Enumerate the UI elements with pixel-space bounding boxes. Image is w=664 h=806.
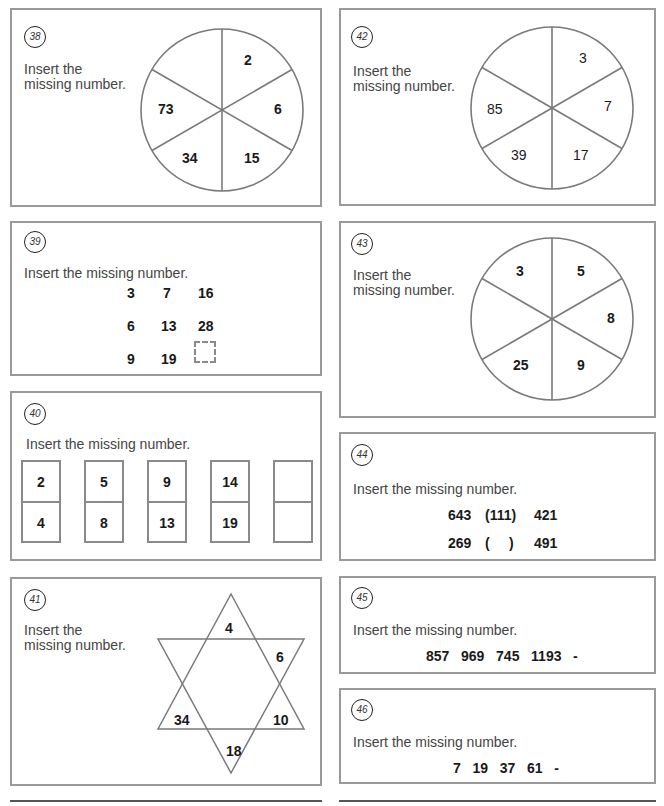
star-point-value: 4 [225, 620, 233, 636]
segment-value: 85 [487, 101, 503, 117]
number-sequence: 7 19 37 61 - [453, 760, 559, 776]
star-point-value: 10 [273, 712, 289, 728]
grid-cell: 16 [198, 285, 214, 301]
grid-cell: 9 [127, 351, 135, 367]
segment-value: 8 [607, 310, 615, 326]
segment-value: 34 [182, 150, 198, 166]
next-puzzle-border [10, 800, 322, 802]
star-diagram [12, 579, 324, 788]
puzzle-number-badge: 45 [351, 587, 373, 609]
domino: 2 4 [21, 460, 61, 543]
grid-cell: 7 [163, 285, 171, 301]
puzzle-44: 44 Insert the missing number. 643 (111) … [339, 432, 656, 561]
segment-value: 6 [274, 101, 282, 117]
domino-bottom: 4 [23, 515, 59, 531]
puzzle-43: 43 Insert the missing number. 5 8 9 25 3 [339, 221, 656, 418]
star-point-value: 6 [276, 649, 284, 665]
segment-value: 9 [577, 357, 585, 373]
puzzle-prompt: Insert the missing number. [353, 623, 517, 638]
missing-domino[interactable] [273, 460, 313, 543]
puzzle-prompt: Insert the missing number. [24, 266, 188, 281]
domino-bottom: 8 [86, 515, 122, 531]
grid-cell: 3 [127, 285, 135, 301]
segment-value: 7 [604, 98, 612, 114]
grid-cell: 13 [161, 318, 177, 334]
segment-value: 39 [511, 147, 527, 163]
grid-cell: 19 [161, 351, 177, 367]
puzzle-41: 41 Insert the missing number. 4 6 10 18 … [10, 577, 322, 786]
domino-top: 2 [23, 474, 59, 490]
missing-bracket-value[interactable]: ( ) [485, 535, 514, 551]
bracket-left-value: 643 [448, 507, 471, 523]
star-point-value: 18 [226, 743, 242, 759]
segment-value: 2 [244, 52, 252, 68]
domino: 14 19 [210, 460, 250, 543]
domino-top: 14 [212, 474, 248, 490]
puzzle-39: 39 Insert the missing number. 3 7 16 6 1… [10, 221, 322, 376]
puzzle-number-badge: 39 [24, 231, 46, 253]
bracket-middle-value: (111) [485, 507, 516, 523]
domino: 9 13 [147, 460, 187, 543]
puzzle-prompt: Insert the missing number. [353, 482, 517, 497]
star-point-value: 34 [174, 712, 190, 728]
puzzle-number-badge: 46 [351, 699, 373, 721]
grid-cell: 28 [198, 318, 214, 334]
domino-top: 9 [149, 474, 185, 490]
segment-value: 73 [158, 101, 174, 117]
bracket-left-value: 269 [448, 535, 471, 551]
puzzle-45: 45 Insert the missing number. 857 969 74… [339, 576, 656, 674]
domino-bottom: 13 [149, 515, 185, 531]
missing-number-box[interactable] [194, 341, 216, 363]
puzzle-number-badge: 40 [24, 403, 46, 425]
segment-value: 3 [516, 263, 524, 279]
number-sequence: 857 969 745 1193 - [426, 648, 578, 664]
next-puzzle-border [339, 800, 656, 802]
bracket-right-value: 491 [534, 535, 557, 551]
bracket-right-value: 421 [534, 507, 557, 523]
puzzle-prompt: Insert the missing number. [353, 735, 517, 750]
domino-top: 5 [86, 474, 122, 490]
segment-value: 17 [573, 147, 589, 163]
grid-cell: 6 [127, 318, 135, 334]
puzzle-46: 46 Insert the missing number. 7 19 37 61… [339, 688, 656, 784]
domino: 5 8 [84, 460, 124, 543]
puzzle-42: 42 Insert the missing number. 3 7 17 39 … [339, 8, 656, 206]
domino-bottom: 19 [212, 515, 248, 531]
segment-value: 3 [579, 50, 587, 66]
segment-value: 25 [513, 357, 529, 373]
puzzle-40: 40 Insert the missing number. 2 4 5 8 9 … [10, 391, 322, 561]
puzzle-38: 38 Insert the missing number. 2 6 15 34 … [10, 8, 322, 207]
puzzle-number-badge: 44 [351, 444, 373, 466]
segment-value: 5 [577, 263, 585, 279]
segment-value: 15 [244, 150, 260, 166]
puzzle-prompt: Insert the missing number. [26, 437, 190, 452]
